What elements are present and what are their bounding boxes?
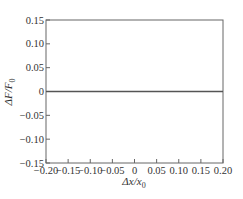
y-tick-label: −0.05 bbox=[20, 110, 44, 121]
x-tick-label: −0.10 bbox=[78, 165, 102, 176]
y-tick-label: −0.10 bbox=[20, 134, 44, 145]
x-axis-label: Δx/x0 bbox=[121, 175, 145, 190]
x-tick-label: 0.15 bbox=[192, 165, 210, 176]
chart: 0.150.100.050−0.05−0.10−0.15 −0.20−0.15−… bbox=[0, 0, 243, 199]
y-axis-ticks: 0.150.100.050−0.05−0.10−0.15 bbox=[20, 15, 50, 169]
y-tick-label: 0.10 bbox=[26, 38, 44, 49]
x-tick-label: 0.20 bbox=[214, 165, 232, 176]
y-axis-label: ΔF/F0 bbox=[2, 79, 17, 107]
x-tick-label: 0.05 bbox=[147, 165, 165, 176]
x-tick-label: 0.10 bbox=[170, 165, 188, 176]
y-tick-label: 0.05 bbox=[26, 62, 44, 73]
x-axis-ticks: −0.20−0.15−0.10−0.0500.050.100.150.20 bbox=[34, 159, 232, 176]
x-tick-label: −0.05 bbox=[100, 165, 124, 176]
x-tick-label: −0.15 bbox=[56, 165, 80, 176]
y-tick-label: 0.15 bbox=[26, 15, 44, 26]
x-tick-label: −0.20 bbox=[34, 165, 58, 176]
y-tick-label: 0 bbox=[39, 86, 44, 97]
